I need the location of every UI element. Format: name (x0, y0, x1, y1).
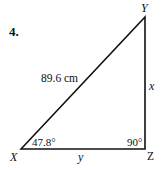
angle-x-label: 47.8° (32, 137, 56, 148)
angle-z-label: 90° (127, 137, 142, 148)
vertex-y-label: Y (141, 2, 148, 14)
problem-number: 4. (9, 25, 19, 38)
vertex-z-label: Z (147, 151, 154, 163)
side-y-label: y (78, 151, 83, 163)
vertex-x-label: X (10, 151, 17, 163)
right-triangle-xyz (21, 17, 145, 149)
hypotenuse-length-label: 89.6 cm (41, 73, 78, 85)
side-x-label: x (149, 80, 154, 92)
